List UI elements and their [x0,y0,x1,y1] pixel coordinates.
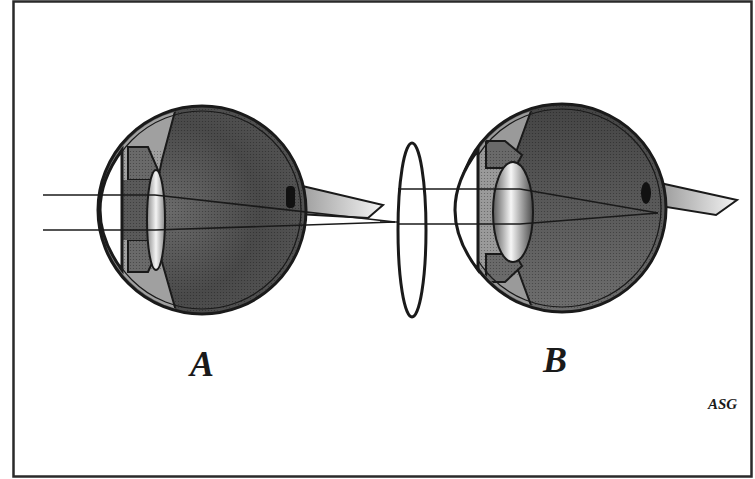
hyperopia-diagram: A B ASG [0,0,755,479]
fovea-b [641,182,651,204]
panel-label-a: A [188,344,214,384]
eye-a: A [43,100,395,384]
cornea-b [455,150,478,270]
lens-a [147,170,165,270]
panel-label-b: B [542,340,567,380]
eye-b: B [398,100,737,380]
cornea-a [100,150,122,270]
fovea-a [286,186,295,208]
lens-b [493,162,533,262]
optic-nerve-b [660,183,737,215]
credit-label: ASG [707,396,737,412]
corrective-convex-lens [398,143,426,317]
